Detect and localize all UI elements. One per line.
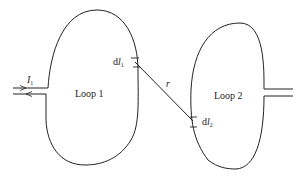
two-loops-diagram: I1 Loop 1 Loop 2 dl1 dl2 r [0, 0, 302, 183]
loop-2-label: Loop 2 [214, 91, 243, 101]
dl1-subscript: 1 [121, 62, 124, 68]
dl2-subscript: 2 [210, 122, 213, 128]
dl2-label: dl2 [202, 117, 213, 128]
loop-1-label: Loop 1 [75, 89, 104, 99]
dl1-label: dl1 [113, 57, 124, 68]
diagram-svg [0, 0, 302, 183]
current-subscript: 1 [30, 80, 33, 86]
current-label: I1 [27, 75, 33, 86]
separation-line [135, 62, 193, 121]
separation-label: r [166, 79, 170, 89]
